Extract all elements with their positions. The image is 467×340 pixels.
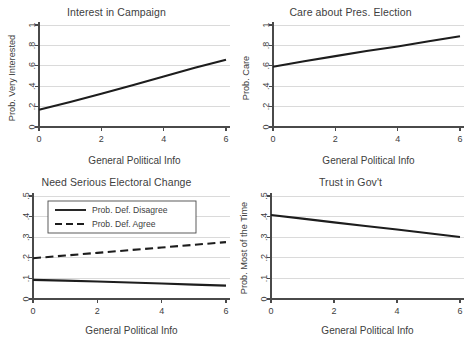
axes-tr bbox=[269, 22, 464, 131]
yticklabels-bl: 0.1.2.3.4.5 bbox=[21, 192, 31, 301]
x-axis-title-bl: General Political Info bbox=[85, 325, 178, 336]
y-axis-title-tr: Prob. Care bbox=[241, 56, 251, 100]
x-tick-label: 4 bbox=[394, 306, 399, 316]
y-tick-label: .3 bbox=[259, 233, 269, 241]
x-tick-label: 4 bbox=[161, 134, 166, 144]
y-tick-label: .8 bbox=[27, 42, 37, 50]
x-tick-label: 0 bbox=[30, 306, 35, 316]
dataseries-tr bbox=[273, 36, 460, 67]
y-tick-label: .5 bbox=[259, 192, 269, 200]
y-tick-label: .5 bbox=[21, 192, 31, 200]
x-tick-label: 2 bbox=[333, 134, 338, 144]
plot-interest-in-campaign: 0.2.4.6.81 0246 General Political Info P… bbox=[0, 0, 233, 170]
y-tick-label: .2 bbox=[261, 103, 271, 111]
y-tick-label: .4 bbox=[259, 213, 269, 221]
x-tick-label: 0 bbox=[270, 134, 275, 144]
x-tick-label: 2 bbox=[95, 306, 100, 316]
y-tick-label: .4 bbox=[21, 213, 31, 221]
plot-care-about-pres-election: 0.2.4.6.81 0246 General Political Info P… bbox=[234, 0, 467, 170]
legend-label: Prob. Def. Agree bbox=[92, 219, 156, 229]
panel-trust-in-govt: Trust in Gov't 0.1.2.3.4.5 0246 General … bbox=[234, 170, 467, 340]
xticklabels-tl: 0246 bbox=[36, 134, 228, 144]
y-tick-label: .4 bbox=[27, 82, 37, 90]
y-tick-label: .1 bbox=[259, 275, 269, 283]
panel-care-about-pres-election: Care about Pres. Election 0.2.4.6.81 024… bbox=[234, 0, 467, 170]
dataseries-bl bbox=[33, 242, 226, 285]
x-tick-label: 2 bbox=[99, 134, 104, 144]
y-tick-label: .2 bbox=[259, 254, 269, 262]
yticklabels-tr: 0.2.4.6.81 bbox=[261, 22, 271, 129]
series-line bbox=[273, 36, 460, 67]
x-tick-label: 0 bbox=[268, 306, 273, 316]
series-line bbox=[33, 242, 226, 258]
x-axis-title-tl: General Political Info bbox=[88, 155, 181, 166]
y-axis-title-tl: Prob. Very Interested bbox=[7, 35, 17, 121]
y-tick-label: .3 bbox=[21, 233, 31, 241]
xticklabels-bl: 0246 bbox=[30, 306, 228, 316]
y-tick-label: .4 bbox=[261, 82, 271, 90]
legend-label: Prob. Def. Disagree bbox=[92, 205, 168, 215]
axes-tl bbox=[35, 22, 230, 131]
panel-interest-in-campaign: Interest in Campaign 0.2.4.6.81 0246 Gen… bbox=[0, 0, 233, 170]
x-tick-label: 6 bbox=[457, 306, 462, 316]
x-tick-label: 6 bbox=[457, 134, 462, 144]
y-tick-label: .2 bbox=[21, 254, 31, 262]
yticklabels-br: 0.1.2.3.4.5 bbox=[259, 192, 269, 301]
x-tick-label: 6 bbox=[223, 134, 228, 144]
figure-canvas: Interest in Campaign 0.2.4.6.81 0246 Gen… bbox=[0, 0, 467, 340]
panel-need-serious-electoral-change: Need Serious Electoral Change 0.1.2.3.4.… bbox=[0, 170, 233, 340]
dataseries-br bbox=[271, 215, 460, 237]
series-line bbox=[271, 215, 460, 237]
y-tick-label: .6 bbox=[261, 62, 271, 70]
legend-need-serious-electoral-change[interactable]: Prob. Def. DisagreeProb. Def. Agree bbox=[48, 201, 196, 233]
xticklabels-tr: 0246 bbox=[270, 134, 462, 144]
x-tick-label: 2 bbox=[331, 306, 336, 316]
y-tick-label: 1 bbox=[261, 22, 271, 27]
yticklabels-tl: 0.2.4.6.81 bbox=[27, 22, 37, 129]
y-tick-label: 0 bbox=[27, 124, 37, 129]
y-tick-label: .1 bbox=[21, 275, 31, 283]
x-tick-label: 4 bbox=[159, 306, 164, 316]
axes-br bbox=[267, 193, 464, 303]
gridlines-br bbox=[271, 196, 464, 299]
x-tick-label: 0 bbox=[36, 134, 41, 144]
x-tick-label: 4 bbox=[395, 134, 400, 144]
series-line bbox=[39, 60, 226, 110]
y-tick-label: 1 bbox=[27, 22, 37, 27]
y-tick-label: 0 bbox=[261, 124, 271, 129]
y-axis-title-br: Prob. Most of the Time bbox=[239, 202, 249, 294]
y-tick-label: .6 bbox=[27, 62, 37, 70]
x-axis-title-tr: General Political Info bbox=[322, 155, 415, 166]
y-tick-label: 0 bbox=[21, 296, 31, 301]
y-tick-label: .8 bbox=[261, 42, 271, 50]
series-line bbox=[33, 280, 226, 286]
dataseries-tl bbox=[39, 60, 226, 110]
xticklabels-br: 0246 bbox=[268, 306, 462, 316]
plot-need-serious-electoral-change: 0.1.2.3.4.5 0246 Prob. Def. DisagreeProb… bbox=[0, 170, 233, 340]
y-tick-label: 0 bbox=[259, 296, 269, 301]
gridlines-tl bbox=[39, 25, 230, 127]
y-tick-label: .2 bbox=[27, 103, 37, 111]
x-tick-label: 6 bbox=[223, 306, 228, 316]
x-axis-title-br: General Political Info bbox=[321, 325, 414, 336]
plot-trust-in-govt: 0.1.2.3.4.5 0246 General Political Info … bbox=[234, 170, 467, 340]
